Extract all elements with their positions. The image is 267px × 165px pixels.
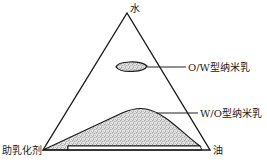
vertex-label-water: 水 xyxy=(130,3,140,14)
vertex-label-cosurfactant: 助乳化剂 xyxy=(2,144,42,156)
vertex-label-oil: 油 xyxy=(213,144,223,156)
region-label-ow: O/W型纳米乳 xyxy=(188,61,250,73)
ternary-phase-diagram: 水 助乳化剂 油 O/W型纳米乳 W/O型纳米乳 xyxy=(0,0,267,165)
region-label-wo: W/O型纳米乳 xyxy=(200,107,262,119)
wo-nanoemulsion-region xyxy=(43,109,200,151)
ow-nanoemulsion-region xyxy=(116,62,147,71)
